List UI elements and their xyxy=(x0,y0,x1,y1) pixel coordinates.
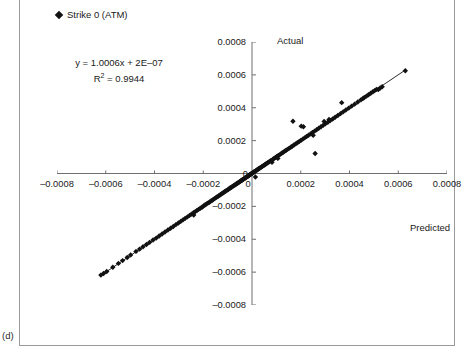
y-axis-tick-label: –0.0002 xyxy=(200,201,246,211)
x-axis-tick-label: –0.0002 xyxy=(186,179,220,189)
x-axis-tick-label: 0.0008 xyxy=(433,179,461,189)
y-axis-tick-label: 0.0002 xyxy=(200,136,246,146)
figure-frame: Strike 0 (ATM) y = 1.0006x + 2E–07 R2 = … xyxy=(19,0,455,346)
chart-legend: Strike 0 (ATM) xyxy=(56,9,128,20)
x-axis-tick-label: 0.0002 xyxy=(287,179,315,189)
y-axis-tick-label: 0 xyxy=(238,169,248,179)
x-axis-tick-label: 0 xyxy=(245,179,250,189)
y-axis-tick-label: –0.0008 xyxy=(200,300,246,310)
y-axis-tick-label: –0.0006 xyxy=(200,267,246,277)
x-axis-tick-label: –0.0004 xyxy=(138,179,172,189)
x-axis-tick-label: –0.0008 xyxy=(40,179,74,189)
scatter-series xyxy=(98,68,408,278)
y-axis-tick-label: 0.0006 xyxy=(200,70,246,80)
figure-caption: (d) xyxy=(2,330,14,341)
x-axis-tick-label: 0.0006 xyxy=(384,179,412,189)
figure-container: Strike 0 (ATM) y = 1.0006x + 2E–07 R2 = … xyxy=(0,0,464,358)
scatter-plot-svg xyxy=(57,42,447,305)
plot-area xyxy=(57,42,447,305)
y-axis-tick-label: 0.0004 xyxy=(200,103,246,113)
diamond-marker-icon xyxy=(55,10,63,18)
x-axis-tick-label: –0.0006 xyxy=(89,179,123,189)
y-axis-tick-label: 0.0008 xyxy=(200,37,246,47)
legend-label: Strike 0 (ATM) xyxy=(67,9,128,20)
x-axis-tick-label: 0.0004 xyxy=(335,179,363,189)
y-axis-tick-label: –0.0004 xyxy=(200,234,246,244)
